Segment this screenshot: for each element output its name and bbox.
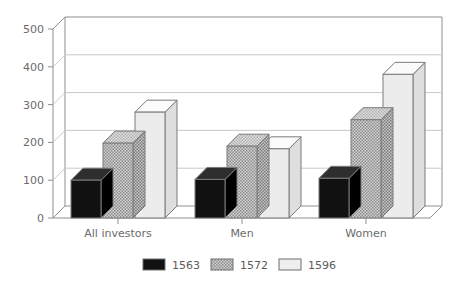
y-tick-label-100: 100 [23,174,44,187]
legend-swatch-1572 [211,259,233,270]
x-category-label-all-investors: All investors [84,227,152,240]
legend-swatch-1596 [279,259,301,270]
legend-item-1596[interactable]: 1596 [279,259,336,272]
x-category-label-men: Men [230,227,253,240]
legend-label-1596: 1596 [308,259,336,272]
bar-1563-all-investors [71,168,113,218]
y-tick-label-300: 300 [23,99,44,112]
y-tick-label-200: 200 [23,136,44,149]
y-tick-label-0: 0 [37,212,44,225]
bar-1563-men [195,167,237,218]
x-category-label-women: Women [345,227,386,240]
legend-swatch-1563 [143,259,165,270]
legend-item-1563[interactable]: 1563 [143,259,200,272]
x-axis: All investors Men Women [84,218,386,240]
legend-label-1563: 1563 [172,259,200,272]
chart-canvas: 0 100 200 300 400 500 All investors Men … [0,0,454,287]
bar-1563-women [319,166,361,218]
y-tick-label-400: 400 [23,61,44,74]
legend-label-1572: 1572 [240,259,268,272]
bar-chart: 0 100 200 300 400 500 All investors Men … [0,0,454,287]
y-tick-label-500: 500 [23,23,44,36]
y-axis: 0 100 200 300 400 500 [23,23,53,225]
chart-legend: 1563 1572 1596 [143,259,336,272]
legend-item-1572[interactable]: 1572 [211,259,268,272]
